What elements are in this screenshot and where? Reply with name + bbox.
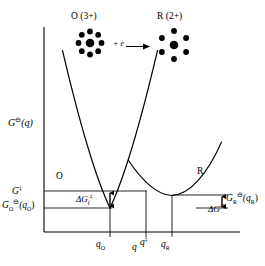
g-reduced-symbol: G (226, 193, 233, 203)
y-axis-argument: (q) (21, 117, 33, 128)
curve-oxidized (63, 51, 158, 209)
delta-g-activation-symbol: ΔG (76, 194, 88, 204)
delta-g-activation-label: ΔGf‡ (76, 194, 92, 206)
oxidized-species-label: O (3+) (71, 12, 97, 22)
electron-label: + e (113, 40, 124, 48)
free-energy-diagram: O (3+) R (2+) + e G⊖(q) O R G‡ GO⊖(qO) G… (0, 0, 265, 266)
g-oxidized-subscript: O (9, 206, 13, 212)
potential-energy-curves (63, 51, 222, 209)
x-tick-label-qr: qR (161, 240, 170, 252)
x-tick-qo-subscript: O (101, 245, 105, 251)
curve-reduced (129, 142, 222, 196)
g-reduced-arg-close: ) (255, 193, 258, 203)
level-lines (44, 191, 228, 208)
double-dagger-icon: ‡ (90, 193, 93, 199)
curve-label-oxidized: O (56, 172, 63, 182)
g-dagger-label: G‡ (12, 186, 22, 197)
curve-label-reduced: R (197, 167, 203, 177)
standard-state-icon: ⊖ (220, 202, 225, 209)
double-dagger-icon: ‡ (145, 236, 148, 242)
g-reduced-label: GR⊖(qR) (226, 192, 258, 206)
g-oxidized-label: GO⊖(qO) (2, 199, 34, 213)
x-tick-label-qo: qO (96, 240, 105, 252)
reduced-species-label: R (2+) (157, 12, 182, 22)
g-reduced-arg-open: (q (243, 193, 251, 203)
g-oxidized-symbol: G (2, 200, 9, 210)
reduced-cluster-icon (159, 28, 189, 62)
g-reduced-subscript: R (233, 199, 237, 205)
oxidized-cluster-icon (76, 29, 105, 58)
y-axis-label: G⊖(q) (8, 117, 33, 128)
x-tick-q-symbol: q (132, 242, 137, 252)
g-dagger-symbol: G (12, 186, 19, 196)
g-oxidized-arg-close: ) (31, 200, 34, 210)
electron-text: + e (113, 39, 124, 48)
x-tick-label-q-plain: q (132, 243, 137, 253)
delta-g-standard-symbol: ΔG (208, 204, 220, 214)
double-dagger-icon: ‡ (19, 185, 22, 191)
delta-g-activation-subscript: f (88, 200, 90, 206)
drop-lines (110, 191, 172, 237)
x-tick-qr-subscript: R (166, 245, 170, 251)
g-oxidized-arg-open: (q (19, 200, 27, 210)
axis-lines (44, 27, 240, 232)
diagram-canvas (0, 0, 265, 266)
x-tick-label-q-dagger: q‡ (140, 237, 148, 248)
delta-g-standard-label: ΔG⊖ (208, 203, 225, 214)
